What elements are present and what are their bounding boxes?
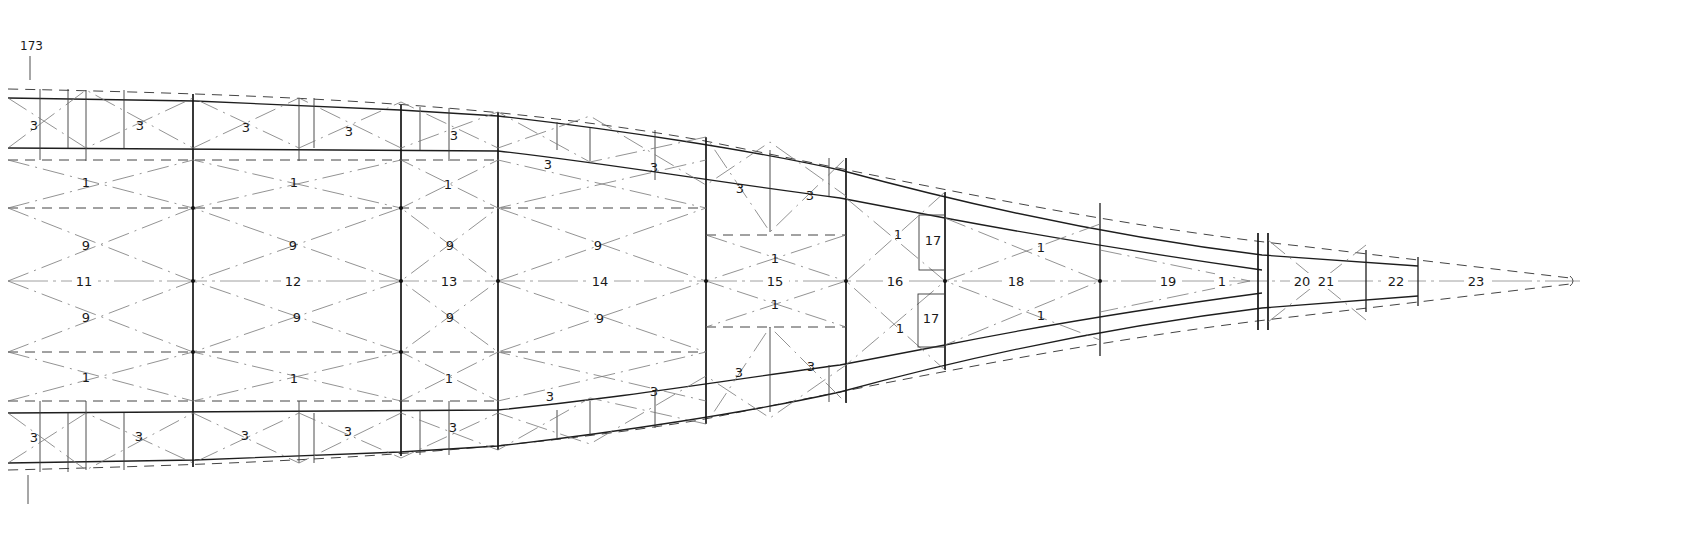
svg-text:21: 21: [1318, 274, 1335, 289]
bay-label: 14: [588, 273, 614, 289]
svg-text:9: 9: [446, 310, 454, 325]
svg-text:3: 3: [735, 365, 743, 380]
svg-text:22: 22: [1388, 274, 1405, 289]
svg-text:1: 1: [771, 297, 779, 312]
svg-text:9: 9: [596, 311, 604, 326]
svg-text:3: 3: [30, 430, 38, 445]
svg-text:3: 3: [345, 124, 353, 139]
svg-text:9: 9: [82, 310, 90, 325]
svg-text:3: 3: [806, 188, 814, 203]
svg-text:1: 1: [82, 175, 90, 190]
svg-text:3: 3: [30, 118, 38, 133]
bay-label: 12: [281, 273, 307, 289]
svg-text:1: 1: [1037, 308, 1045, 323]
svg-text:3: 3: [736, 181, 744, 196]
bay-label: 13: [437, 273, 463, 289]
svg-text:18: 18: [1008, 274, 1025, 289]
box-labels-17: 17 17: [923, 233, 942, 326]
reference-number: 173: [20, 39, 43, 53]
svg-text:16: 16: [887, 274, 904, 289]
svg-text:19: 19: [1160, 274, 1177, 289]
svg-text:3: 3: [344, 424, 352, 439]
svg-text:1: 1: [290, 371, 298, 386]
bay-label: 23: [1464, 273, 1488, 289]
svg-text:9: 9: [293, 310, 301, 325]
bay-labels: 11 12 13 14 15 16 18 19 1 20 21 22 23: [72, 273, 1488, 289]
svg-text:1: 1: [896, 321, 904, 336]
svg-text:3: 3: [650, 384, 658, 399]
bay-label: 18: [1004, 273, 1030, 289]
svg-text:17: 17: [925, 233, 942, 248]
svg-text:9: 9: [289, 238, 297, 253]
svg-text:14: 14: [592, 274, 609, 289]
svg-text:1: 1: [1037, 240, 1045, 255]
bay-label: 11: [72, 273, 98, 289]
diagonal-labels-9: 9 9 9 9 9 9 9 9: [82, 238, 604, 326]
svg-text:9: 9: [82, 238, 90, 253]
svg-text:1: 1: [444, 177, 452, 192]
svg-text:3: 3: [546, 389, 554, 404]
svg-text:1: 1: [82, 370, 90, 385]
bay-label: 15: [763, 273, 789, 289]
svg-text:1: 1: [445, 371, 453, 386]
bay-label: 16: [883, 273, 909, 289]
svg-text:23: 23: [1468, 274, 1485, 289]
svg-text:3: 3: [449, 420, 457, 435]
svg-text:11: 11: [76, 274, 93, 289]
svg-text:3: 3: [450, 128, 458, 143]
svg-text:1: 1: [1218, 274, 1226, 289]
svg-text:1: 1: [894, 227, 902, 242]
svg-text:3: 3: [544, 157, 552, 172]
truss-drawing: 173: [0, 0, 1682, 534]
bay-label: 22: [1384, 273, 1408, 289]
bay-label: 1: [1215, 273, 1229, 289]
chords: [8, 98, 1418, 463]
chord-verticals: [40, 89, 829, 472]
svg-text:12: 12: [285, 274, 302, 289]
svg-text:3: 3: [241, 428, 249, 443]
bay-label: 21: [1314, 273, 1338, 289]
svg-text:3: 3: [807, 359, 815, 374]
svg-text:1: 1: [290, 175, 298, 190]
svg-text:3: 3: [136, 118, 144, 133]
svg-text:13: 13: [441, 274, 458, 289]
svg-text:9: 9: [594, 238, 602, 253]
svg-text:17: 17: [923, 311, 940, 326]
svg-text:15: 15: [767, 274, 784, 289]
svg-text:9: 9: [446, 238, 454, 253]
svg-text:3: 3: [135, 429, 143, 444]
bay-label: 20: [1290, 273, 1314, 289]
svg-text:1: 1: [771, 251, 779, 266]
svg-text:20: 20: [1294, 274, 1311, 289]
svg-text:3: 3: [650, 160, 658, 175]
bay-label: 19: [1156, 273, 1182, 289]
svg-text:3: 3: [242, 120, 250, 135]
